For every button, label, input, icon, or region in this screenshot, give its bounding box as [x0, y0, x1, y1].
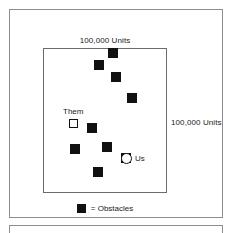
obstacle-marker	[111, 72, 121, 82]
dimension-label-top: 100,000 Units	[43, 36, 167, 45]
figure-canvas: 100,000 Units 100,000 Units Them Us = Ob…	[0, 0, 233, 233]
legend-label: = Obstacles	[91, 204, 133, 213]
dimension-label-right: 100,000 Units	[171, 118, 222, 127]
us-label: Us	[135, 154, 145, 163]
figure-outer-frame: 100,000 Units 100,000 Units Them Us = Ob…	[9, 9, 223, 218]
them-label: Them	[63, 107, 83, 116]
obstacle-marker	[94, 60, 104, 70]
obstacle-marker	[70, 144, 80, 154]
them-marker-icon	[69, 119, 78, 128]
arena-box	[43, 48, 167, 193]
us-marker-icon	[121, 153, 132, 164]
obstacle-marker	[102, 142, 112, 152]
legend: = Obstacles	[43, 204, 167, 213]
obstacle-marker	[93, 167, 103, 177]
obstacle-marker	[127, 93, 137, 103]
lower-panel-frame	[9, 225, 223, 233]
obstacle-marker	[87, 123, 97, 133]
obstacle-swatch-icon	[77, 204, 86, 213]
obstacle-marker	[108, 48, 118, 58]
